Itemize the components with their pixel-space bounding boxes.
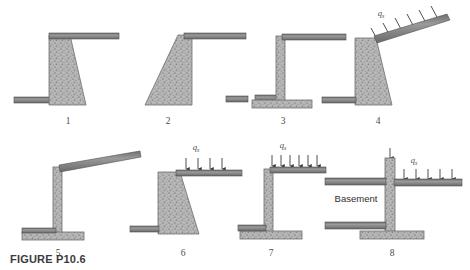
- panel-8-basement-label: Basement: [335, 193, 378, 204]
- panel-3-number: 3: [281, 116, 286, 126]
- panel-8-lower-floor-slab: [325, 222, 386, 229]
- panel-8-footing: [360, 231, 424, 239]
- panel-1-ground-line: [14, 97, 50, 103]
- panel-2-backfill-slab: [184, 33, 246, 39]
- panel-7-wall-stem: [264, 169, 273, 233]
- panel-7-number: 7: [269, 248, 274, 258]
- panel-7-backfill-slab: [270, 167, 326, 173]
- panel-4-ground-line: [322, 97, 356, 103]
- figure-container: 1 2 3 qs: [0, 0, 470, 270]
- figure-caption: FIGURE P10.6: [10, 253, 86, 265]
- panel-2-number: 2: [166, 116, 171, 126]
- panel-7-ground-line: [238, 225, 266, 231]
- panel-5-wall-stem: [53, 167, 62, 234]
- panel-4-number: 4: [376, 116, 381, 126]
- panel-1-backfill-slab: [49, 33, 119, 39]
- panel-8-exterior-grade-slab: [394, 179, 462, 186]
- panel-8-number: 8: [390, 248, 395, 258]
- panel-8-upper-floor-slab: [325, 178, 386, 185]
- panel-6-backfill-slab: [176, 170, 242, 176]
- panel-2-ground-line: [226, 96, 248, 102]
- panel-7-footing: [240, 231, 302, 239]
- panel-3-wall-stem: [276, 36, 285, 102]
- panel-5-ground-line: [22, 228, 56, 233]
- panel-8-basement-wall: [385, 158, 395, 233]
- panel-3-footing: [252, 100, 312, 108]
- panel-6-ground-line: [130, 226, 159, 232]
- panel-3-backfill-slab: [282, 34, 346, 40]
- panel-6-number: 6: [181, 248, 186, 258]
- retaining-wall-figure: 1 2 3 qs: [0, 0, 470, 270]
- panel-1-number: 1: [66, 116, 71, 126]
